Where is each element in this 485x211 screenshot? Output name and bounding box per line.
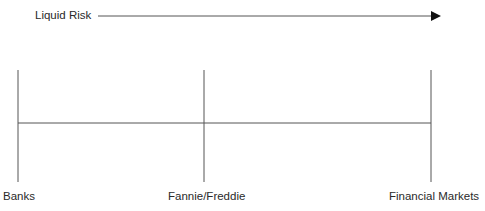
diagram-lines [0,0,485,211]
arrowhead-icon [431,11,441,21]
node-label-fannie-freddie: Fannie/Freddie [168,191,245,203]
node-label-banks: Banks [3,191,35,203]
node-label-financial-markets: Financial Markets [389,191,479,203]
